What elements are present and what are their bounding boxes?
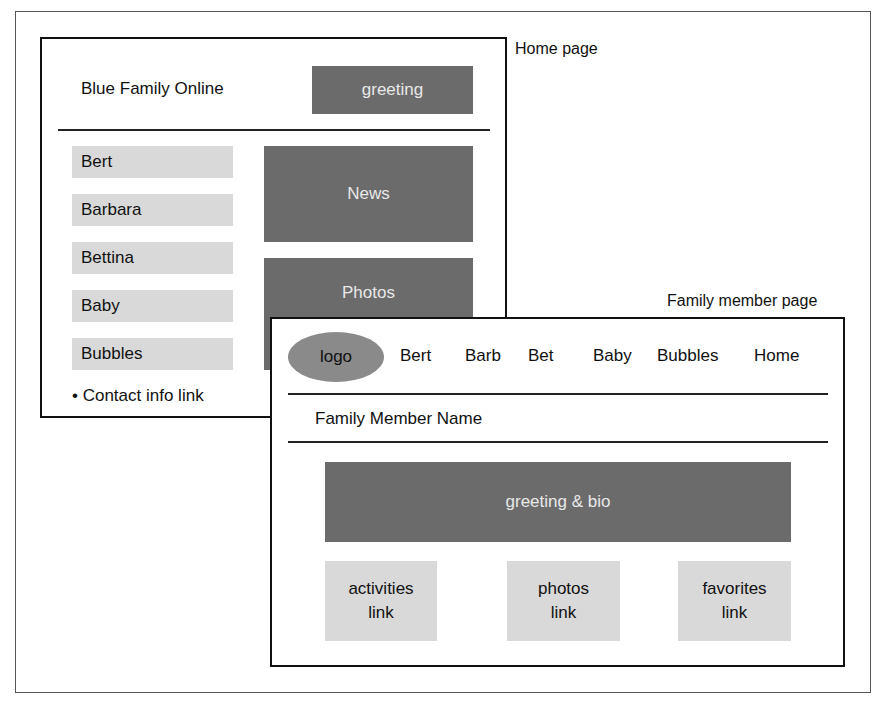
link-label-line1: favorites bbox=[702, 577, 766, 601]
activities-link[interactable]: activities link bbox=[325, 561, 437, 641]
link-label-line2: link bbox=[551, 601, 577, 625]
member-link-label: Bubbles bbox=[81, 344, 142, 364]
member-page-caption: Family member page bbox=[667, 292, 817, 310]
member-link-label: Bettina bbox=[81, 248, 134, 268]
link-label-line1: photos bbox=[538, 577, 589, 601]
news-block: News bbox=[264, 146, 473, 242]
nav-link-home[interactable]: Home bbox=[754, 346, 799, 366]
link-label-line2: link bbox=[722, 601, 748, 625]
name-divider bbox=[288, 441, 828, 443]
link-label-line1: activities bbox=[348, 577, 413, 601]
member-link-baby[interactable]: Baby bbox=[72, 290, 233, 322]
favorites-link[interactable]: favorites link bbox=[678, 561, 791, 641]
home-page-caption: Home page bbox=[515, 40, 598, 58]
member-link-label: Baby bbox=[81, 296, 120, 316]
nav-link-bet[interactable]: Bet bbox=[528, 346, 554, 366]
greeting-block: greeting bbox=[312, 66, 473, 114]
member-link-bubbles[interactable]: Bubbles bbox=[72, 338, 233, 370]
photos-link[interactable]: photos link bbox=[507, 561, 620, 641]
member-link-label: Bert bbox=[81, 152, 112, 172]
link-label-line2: link bbox=[368, 601, 394, 625]
header-divider bbox=[58, 129, 490, 131]
member-link-bettina[interactable]: Bettina bbox=[72, 242, 233, 274]
member-link-label: Barbara bbox=[81, 200, 141, 220]
photos-label: Photos bbox=[342, 283, 395, 303]
nav-divider bbox=[288, 393, 828, 395]
site-title: Blue Family Online bbox=[81, 79, 224, 99]
member-link-barbara[interactable]: Barbara bbox=[72, 194, 233, 226]
nav-link-barb[interactable]: Barb bbox=[465, 346, 501, 366]
member-name: Family Member Name bbox=[315, 409, 482, 429]
member-page-wireframe: logo Bert Barb Bet Baby Bubbles Home Fam… bbox=[270, 317, 845, 667]
greeting-bio-block: greeting & bio bbox=[325, 462, 791, 542]
member-link-bert[interactable]: Bert bbox=[72, 146, 233, 178]
nav-link-bert[interactable]: Bert bbox=[400, 346, 431, 366]
nav-link-baby[interactable]: Baby bbox=[593, 346, 632, 366]
logo-label: logo bbox=[320, 347, 352, 367]
nav-link-bubbles[interactable]: Bubbles bbox=[657, 346, 718, 366]
contact-info-link[interactable]: • Contact info link bbox=[72, 386, 204, 406]
logo-oval[interactable]: logo bbox=[288, 332, 384, 382]
